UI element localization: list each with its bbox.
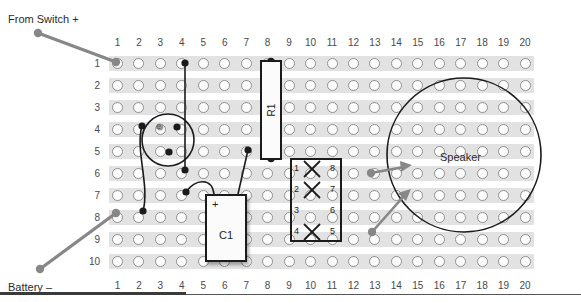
bottom-divider-accent	[0, 292, 186, 295]
annotation-from-switch: From Switch +	[8, 14, 79, 25]
breadboard-diagram: 1234567891011121314151617181920 12345678…	[0, 0, 581, 302]
annotation-layer: From Switch +Battery –	[0, 0, 581, 302]
